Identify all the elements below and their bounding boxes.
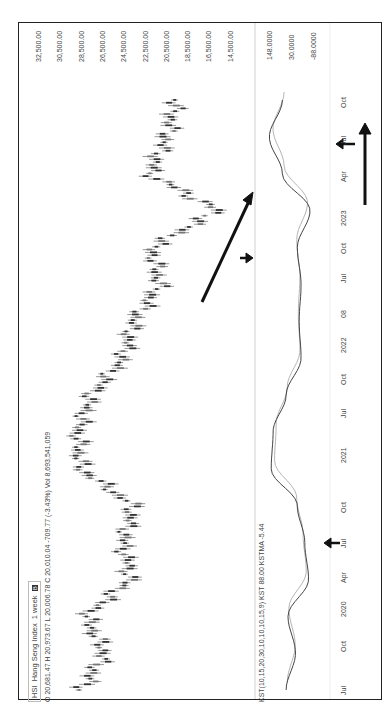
kst-tick-label: 30.0000: [288, 35, 295, 60]
time-tick-label: 08: [340, 310, 347, 318]
time-tick-label: Oct: [340, 502, 347, 513]
arrowhead-icon: [243, 192, 253, 205]
symbol: HSI: [30, 685, 39, 698]
price-tick-label: 14,500.00: [227, 31, 234, 62]
price-tick-label: 26,500.00: [99, 31, 106, 62]
price-tick-label: 32,500.00: [35, 31, 42, 62]
time-tick-label: 2022: [340, 337, 347, 353]
symbol-name: Hang Seng Index: [30, 623, 39, 681]
time-tick-label: Oct: [340, 97, 347, 108]
badge-icon[interactable]: B: [32, 585, 38, 591]
chart-canvas[interactable]: [0, 0, 389, 710]
time-tick-label: Jul: [340, 539, 347, 548]
time-tick-label: Jul: [340, 274, 347, 283]
symbol-legend[interactable]: HSI Hang Seng Index 1 week B: [30, 581, 39, 702]
time-tick-label: Apr: [340, 171, 347, 182]
time-tick-label: Jul: [340, 409, 347, 418]
price-tick-label: 30,500.00: [56, 31, 63, 62]
time-tick-label: 2020: [340, 601, 347, 617]
time-tick-label: 2021: [340, 447, 347, 463]
annotation-arrows: [202, 123, 371, 548]
time-tick-label: Jul: [340, 136, 347, 145]
price-tick-label: 20,500.00: [163, 31, 170, 62]
time-tick-label: Apr: [340, 572, 347, 583]
price-tick-label: 24,500.00: [120, 31, 127, 62]
price-tick-label: 28,500.00: [78, 31, 85, 62]
time-tick-label: Oct: [340, 374, 347, 385]
kst-tick-label: -88.0000: [310, 32, 317, 60]
time-tick-label: Oct: [340, 641, 347, 652]
price-tick-label: 22,500.00: [142, 31, 149, 62]
kst-legend: KST(10,15,20,30,10,10,10,15,9) KST 88.00…: [258, 524, 265, 702]
time-tick-label: Jul: [340, 686, 347, 695]
diagonal-arrow-icon: [202, 199, 250, 302]
ohlc-line: O 20,681.47 H 20,973.67 L 20,006.78 C 20…: [44, 432, 51, 702]
price-tick-label: 16,500.00: [205, 31, 212, 62]
price-candles: [66, 99, 227, 691]
time-tick-label: Oct: [340, 243, 347, 254]
time-tick-label: 2023: [340, 210, 347, 226]
kst-line: [270, 100, 310, 690]
interval[interactable]: 1 week: [30, 595, 39, 619]
price-tick-label: 18,500.00: [184, 31, 191, 62]
kst-tick-label: 148.0000: [266, 31, 273, 60]
